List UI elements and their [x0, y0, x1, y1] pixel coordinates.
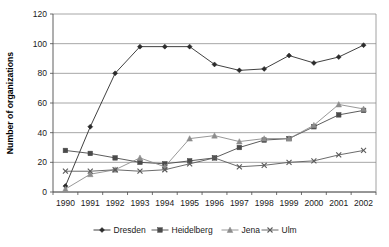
x-tick-label: 1996: [205, 198, 224, 208]
x-tick-label: 1998: [255, 198, 274, 208]
data-point-marker: [138, 160, 143, 165]
y-tick-label: 100: [33, 39, 47, 49]
y-tick-label: 60: [38, 98, 48, 108]
x-tick-label: 1991: [81, 198, 100, 208]
y-axis-title: Number of organizations: [5, 52, 15, 154]
y-tick-label: 80: [38, 68, 48, 78]
data-point-marker: [237, 145, 242, 150]
legend-label: Ulm: [282, 225, 297, 235]
y-tick-label: 120: [33, 9, 47, 19]
x-tick-label: 2001: [329, 198, 348, 208]
legend-label: Jena: [242, 225, 261, 235]
y-tick-label: 20: [38, 157, 48, 167]
y-tick-label: 0: [42, 187, 47, 197]
x-tick-label: 2002: [354, 198, 373, 208]
x-tick-label: 1992: [106, 198, 125, 208]
x-tick-label: 1995: [180, 198, 199, 208]
y-tick-label: 40: [38, 128, 48, 138]
x-tick-label: 1999: [280, 198, 299, 208]
x-tick-label: 2000: [304, 198, 323, 208]
chart-background: [0, 0, 389, 247]
x-tick-label: 1997: [230, 198, 249, 208]
x-tick-label: 1993: [131, 198, 150, 208]
data-point-marker: [113, 156, 118, 161]
data-point-marker: [88, 151, 93, 156]
legend-marker-square-icon: [158, 228, 163, 233]
x-tick-label: 1994: [155, 198, 174, 208]
legend-label: Dresden: [114, 225, 146, 235]
legend-label: Heidelberg: [172, 225, 213, 235]
chart-canvas: 020406080100120 199019911992199319941995…: [0, 0, 389, 247]
data-point-marker: [336, 113, 341, 118]
data-point-marker: [63, 148, 68, 153]
x-tick-label: 1990: [56, 198, 75, 208]
line-chart-figure: 020406080100120 199019911992199319941995…: [0, 0, 389, 247]
